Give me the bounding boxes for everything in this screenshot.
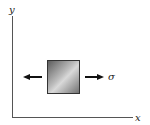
x-axis-label: x [135,112,141,123]
y-axis-label: y [8,4,15,15]
left-arrow-icon [23,74,42,80]
stress-element-square [48,61,80,94]
sigma-label: σ [108,71,116,82]
stress-diagram: y x σ [0,0,150,125]
right-arrow-icon [85,74,104,80]
